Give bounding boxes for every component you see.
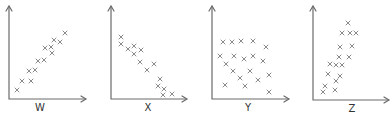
- data-point-marker: [238, 76, 242, 80]
- data-point-marker: [36, 59, 40, 63]
- data-point-marker: [145, 68, 149, 72]
- data-point-marker: [248, 69, 252, 73]
- data-point-marker: [348, 31, 352, 35]
- data-point-marker: [162, 87, 166, 91]
- data-point-marker: [33, 68, 37, 72]
- data-point-marker: [50, 51, 54, 55]
- x-label-w: W: [35, 102, 45, 113]
- data-point-marker: [337, 55, 341, 59]
- data-point-marker: [52, 38, 56, 42]
- scatter-plot-w: [6, 6, 86, 102]
- data-point-marker: [354, 31, 358, 35]
- data-point-marker: [20, 79, 24, 83]
- data-point-marker: [321, 90, 325, 94]
- data-point-marker: [29, 79, 33, 83]
- data-point-marker: [338, 74, 342, 78]
- data-point-marker: [243, 84, 247, 88]
- data-point-marker: [126, 47, 130, 51]
- scatter-plot-x: [108, 6, 187, 102]
- data-point-marker: [267, 90, 271, 94]
- data-point-marker: [326, 72, 330, 76]
- data-point-marker: [340, 31, 344, 35]
- data-point-marker: [138, 60, 142, 64]
- data-point-marker: [119, 42, 123, 46]
- data-point-marker: [261, 59, 265, 63]
- data-point-marker: [132, 44, 136, 48]
- data-point-marker: [242, 57, 246, 61]
- data-point-marker: [338, 45, 342, 49]
- x-label-z: Z: [349, 103, 356, 114]
- scatter-plot-y: [209, 6, 289, 102]
- data-point-marker: [119, 35, 123, 39]
- data-point-marker: [152, 62, 156, 66]
- data-point-marker: [224, 62, 228, 66]
- data-point-marker: [251, 39, 255, 43]
- data-point-marker: [334, 63, 338, 67]
- data-point-marker: [256, 78, 260, 82]
- data-point-marker: [232, 54, 236, 58]
- data-point-marker: [346, 21, 350, 25]
- data-point-marker: [132, 52, 136, 56]
- scatter-panel: [0, 0, 391, 115]
- data-point-marker: [156, 84, 160, 88]
- data-point-marker: [221, 40, 225, 44]
- data-point-marker: [27, 69, 31, 73]
- data-point-marker: [267, 73, 271, 77]
- data-point-marker: [333, 88, 337, 92]
- data-point-marker: [63, 31, 67, 35]
- data-point-marker: [218, 54, 222, 58]
- scatter-plot-z: [310, 6, 389, 103]
- data-point-marker: [347, 55, 351, 59]
- data-point-marker: [230, 40, 234, 44]
- data-point-marker: [15, 88, 19, 92]
- data-point-marker: [170, 92, 174, 96]
- data-point-marker: [223, 83, 227, 87]
- x-label-x: X: [145, 102, 152, 113]
- data-point-marker: [42, 58, 46, 62]
- data-point-marker: [139, 48, 143, 52]
- x-label-y: Y: [245, 102, 251, 113]
- data-point-marker: [43, 46, 47, 50]
- data-point-marker: [334, 79, 338, 83]
- data-point-marker: [239, 39, 243, 43]
- data-point-marker: [323, 84, 327, 88]
- data-point-marker: [264, 45, 268, 49]
- data-point-marker: [49, 45, 53, 49]
- data-point-marker: [231, 69, 235, 73]
- data-point-marker: [161, 93, 165, 97]
- data-point-marker: [350, 44, 354, 48]
- data-point-marker: [340, 63, 344, 67]
- data-point-marker: [158, 77, 162, 81]
- axes: [111, 6, 187, 99]
- data-point-marker: [328, 62, 332, 66]
- data-point-marker: [58, 40, 62, 44]
- axes: [9, 6, 86, 99]
- data-point-marker: [251, 54, 255, 58]
- axes: [212, 6, 289, 99]
